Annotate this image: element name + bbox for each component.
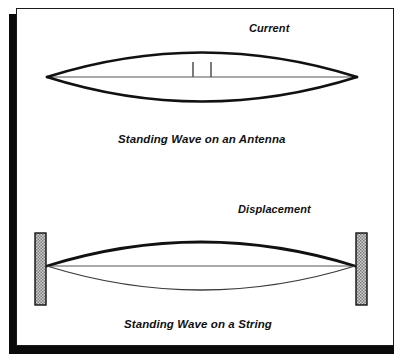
string-wall-left (35, 233, 46, 305)
diagram-page: Current Standing Wave on an Antenna (0, 0, 402, 362)
string-panel (0, 0, 402, 362)
string-quantity-label: Displacement (238, 203, 311, 215)
string-displacement-envelope-upper (47, 242, 355, 266)
string-caption: Standing Wave on a String (124, 318, 272, 330)
string-drawing (0, 0, 402, 362)
string-displacement-envelope-lower (47, 266, 355, 290)
string-wall-right (356, 233, 367, 305)
